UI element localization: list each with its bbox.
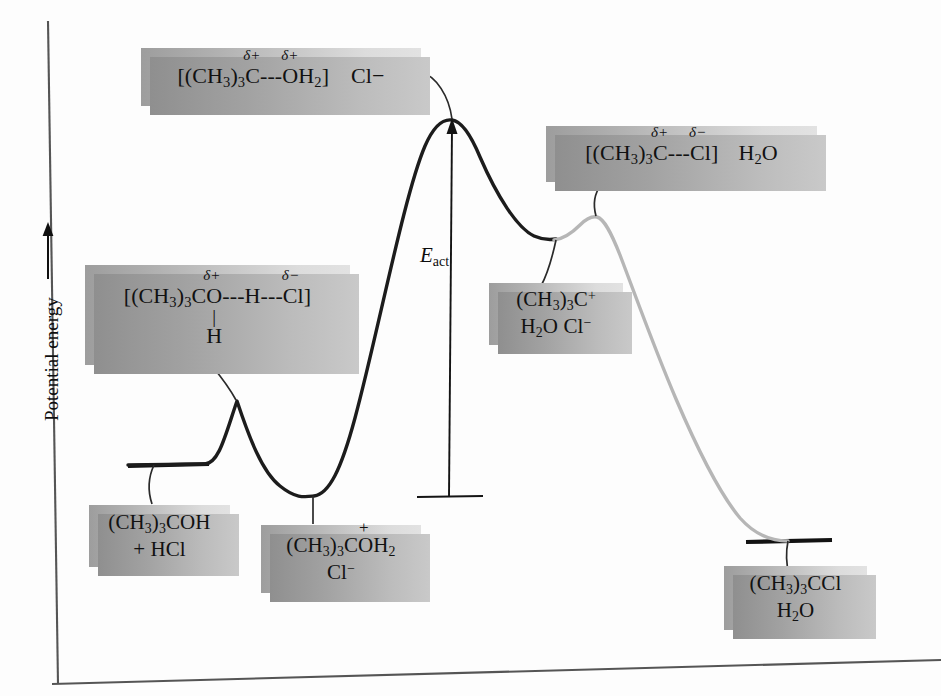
- leader-reactants: [149, 465, 154, 504]
- intermediate-2-box: (CH3)3C+ H2O Cl−: [489, 283, 623, 345]
- ts1-chlorine: δ−Cl]: [283, 283, 311, 309]
- transition-state-2-box: [(CH3)3δ+C---δ+OH2]Cl−: [141, 48, 421, 106]
- arrow-right-icon: [42, 221, 54, 279]
- products-line-1: (CH3)3CCl: [750, 571, 842, 598]
- energy-diagram-figure: Potential energy Eact [(CH3)3δ+C---δ+OH2…: [0, 0, 941, 696]
- activation-energy-arrow: [417, 118, 483, 497]
- x-axis-line: [52, 660, 941, 684]
- int1-line-2: Cl−: [327, 560, 355, 585]
- y-axis-label: Potential energy: [41, 221, 63, 421]
- eact-subscript: act: [433, 254, 449, 269]
- ts1-delta-right: δ−: [282, 267, 299, 285]
- ts1-lower-hydrogen: H: [206, 325, 222, 347]
- ts2-oxygen: δ+O: [282, 63, 298, 88]
- reactants-box: (CH3)3COH + HCl: [89, 505, 230, 567]
- ts1-delta-left: δ+: [203, 267, 220, 285]
- ts2-h2-close: H2]: [298, 63, 329, 88]
- transition-state-1-box: [(CH3)3Cδ+O|H---H---δ−Cl]: [85, 265, 350, 365]
- int2-line-2: H2O Cl−: [521, 314, 592, 341]
- ts1-prefix: [(CH3)3C: [124, 283, 207, 311]
- y-axis-label-text: Potential energy: [41, 297, 62, 421]
- transition-state-3-box: [(CH3)3δ+C---δ−Cl]H2O: [546, 126, 817, 182]
- energy-curve-gray: [554, 217, 788, 541]
- int1-plus-charge: +: [359, 518, 369, 538]
- leader-int2: [541, 240, 556, 286]
- ts3-counterion: H2O: [738, 140, 777, 165]
- ts3-delta-right: δ−: [689, 124, 706, 142]
- ts2-counterion: Cl−: [351, 63, 385, 88]
- ts3-carbon: δ+C: [653, 140, 668, 165]
- products-box: (CH3)3CCl H2O: [724, 566, 867, 630]
- ts3-chlorine: δ−Cl]: [690, 140, 718, 165]
- ts1-middle: ---H---: [222, 283, 283, 309]
- int2-line-1: (CH3)3C+: [516, 287, 596, 314]
- ts1-oxygen-stack: δ+O|H: [206, 283, 222, 347]
- ts2-dashes: ---: [260, 63, 282, 88]
- products-line-2: H2O: [777, 598, 815, 625]
- ts1-formula: [(CH3)3Cδ+O|H---H---δ−Cl]: [124, 283, 312, 347]
- ts3-dashes: ---: [668, 140, 690, 165]
- reactants-line-2: + HCl: [133, 537, 186, 562]
- eact-symbol: E: [420, 243, 433, 267]
- ts2-delta-right: δ+: [281, 47, 298, 65]
- ts3-delta-left: δ+: [651, 124, 668, 142]
- ts2-carbon: δ+C: [245, 63, 260, 88]
- up-arrow-icon: [37, 221, 59, 279]
- intermediate-1-box: (CH3)3C+OH2 Cl−: [261, 525, 421, 593]
- activation-energy-label: Eact: [420, 243, 449, 270]
- reactants-line-1: (CH3)3COH: [108, 510, 210, 537]
- ts2-delta-left: δ+: [243, 47, 260, 65]
- ts2-formula: [(CH3)3δ+C---δ+OH2]Cl−: [177, 63, 384, 91]
- ts3-bracket-open: [(CH3)3: [585, 140, 653, 165]
- int1-line-1: (CH3)3C+OH2: [286, 533, 395, 560]
- ts2-bracket-open: [(CH3)3: [177, 63, 245, 88]
- ts3-formula: [(CH3)3δ+C---δ−Cl]H2O: [585, 140, 778, 168]
